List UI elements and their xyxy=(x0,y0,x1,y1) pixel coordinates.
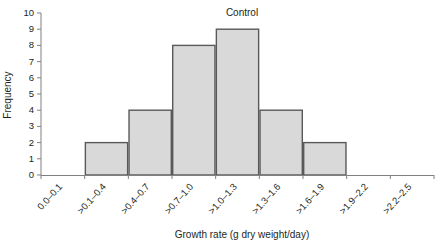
x-tick-label: >1.6–1.9 xyxy=(293,181,326,216)
y-tick-label: 10 xyxy=(23,7,34,18)
y-tick-label: 8 xyxy=(29,39,34,50)
y-tick-label: 0 xyxy=(29,169,34,180)
histogram-bar xyxy=(216,29,258,175)
chart-canvas: Control Frequency Growth rate (g dry wei… xyxy=(0,0,443,245)
y-tick-label: 4 xyxy=(29,104,34,115)
x-tick-label: >0.1–0.4 xyxy=(75,181,108,216)
y-tick-label: 9 xyxy=(29,23,34,34)
x-tick-label: >1.0–1.3 xyxy=(206,181,239,216)
y-tick-label: 5 xyxy=(29,88,34,99)
y-axis-title: Frequency xyxy=(2,71,13,118)
x-tick-label: 0.0–0.1 xyxy=(35,181,64,212)
y-tick-label: 6 xyxy=(29,72,34,83)
y-tick-label: 7 xyxy=(29,56,34,67)
y-tick-label: 1 xyxy=(29,153,34,164)
x-tick-label: >1.9–2.2 xyxy=(337,181,370,216)
bars-group xyxy=(85,29,346,175)
x-tick-label: >0.7–1.0 xyxy=(162,181,195,216)
y-tick-label: 2 xyxy=(29,137,34,148)
x-tick-label: >1.3–1.6 xyxy=(250,181,283,216)
histogram-bar xyxy=(129,110,171,175)
y-tick-label: 3 xyxy=(29,120,34,131)
x-axis-title: Growth rate (g dry weight/day) xyxy=(175,229,310,240)
y-ticks-group: 012345678910 xyxy=(23,7,41,180)
histogram-bar xyxy=(260,110,302,175)
x-tick-label: >2.2–2.5 xyxy=(381,181,414,216)
x-tick-label: >0.4–0.7 xyxy=(119,181,152,216)
histogram-bar xyxy=(304,143,346,175)
histogram-bar xyxy=(173,45,215,175)
histogram-bar xyxy=(85,143,127,175)
histogram-figure: Control Frequency Growth rate (g dry wei… xyxy=(0,0,443,245)
x-ticks-group: 0.0–0.1>0.1–0.4>0.4–0.7>0.7–1.0>1.0–1.3>… xyxy=(35,175,434,216)
chart-title: Control xyxy=(226,7,258,18)
